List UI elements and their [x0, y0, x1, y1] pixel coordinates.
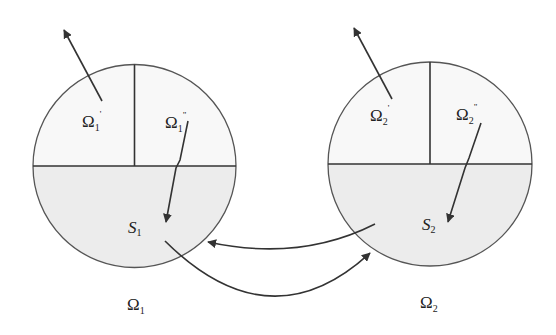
label-omega2: Ω2: [420, 293, 438, 314]
domain-diagram: Ω1' Ω1" S1 Ω1 Ω2' Ω2" S2 Ω2: [0, 0, 556, 335]
label-omega1: Ω1: [127, 295, 145, 316]
domain-omega2: [328, 62, 532, 266]
domain-omega1: [33, 65, 236, 268]
